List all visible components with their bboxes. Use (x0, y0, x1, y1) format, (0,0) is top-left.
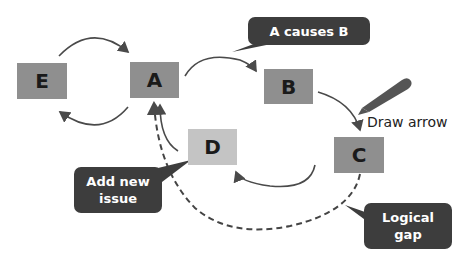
node-e-label: E (35, 69, 49, 93)
node-c-label: C (352, 143, 367, 167)
node-c: C (334, 137, 384, 173)
arrow-e-to-a (59, 38, 128, 56)
arrow-a-to-e (60, 107, 128, 125)
node-d-label: D (204, 135, 221, 159)
node-e: E (17, 63, 67, 99)
node-d: D (188, 129, 237, 165)
node-b: B (264, 69, 313, 104)
draw-arrow-label: Draw arrow (367, 114, 448, 130)
callout-a-causes-b: A causes B (248, 17, 370, 45)
arrow-a-to-b (185, 57, 256, 76)
callout-add-new-issue: Add new issue (74, 167, 162, 213)
callout-a-causes-b-text: A causes B (269, 23, 348, 40)
arrow-c-to-d (236, 165, 315, 187)
pencil-icon (358, 78, 412, 115)
node-b-label: B (281, 75, 296, 99)
callout-add-new-issue-text: Add new issue (80, 173, 156, 207)
arrow-c-to-a-dashed (154, 103, 360, 229)
node-a-label: A (147, 68, 162, 92)
node-a: A (130, 62, 179, 98)
callout-logical-gap: Logical gap (364, 203, 452, 249)
callout-tail-add-new-issue (158, 160, 191, 182)
arrow-d-to-a (160, 105, 178, 151)
callout-logical-gap-text: Logical gap (376, 209, 440, 243)
arrow-b-to-c (318, 92, 360, 130)
